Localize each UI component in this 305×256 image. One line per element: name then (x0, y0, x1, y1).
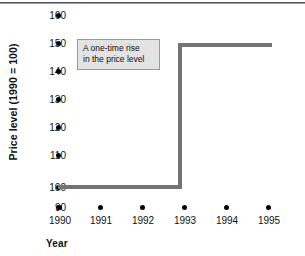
x-axis-title: Year (46, 238, 68, 249)
y-tick-dot-160 (56, 13, 61, 18)
y-tick-dot-130 (56, 97, 61, 102)
x-tick-dot-1995 (266, 205, 271, 210)
x-tick-label-1995: 1995 (249, 215, 289, 226)
x-tick-label-1991: 1991 (81, 215, 121, 226)
x-tick-label-1990: 1990 (40, 215, 80, 226)
y-tick-dot-110 (56, 153, 61, 158)
x-tick-label-1993: 1993 (165, 215, 205, 226)
x-tick-dot-1991 (98, 205, 103, 210)
x-tick-dot-1992 (140, 205, 145, 210)
y-axis-title: Price level (1990 = 100) (7, 37, 19, 167)
y-tick-dot-120 (56, 125, 61, 130)
annotation-line-1: A one-time rise (83, 43, 155, 54)
annotation-callout: A one-time rise in the price level (77, 39, 160, 70)
price-level-step-chart: Price level (1990 = 100) 160 150 140 130… (0, 0, 305, 256)
series-segment-vertical-rise-1993 (178, 43, 182, 189)
x-tick-dot-1994 (224, 205, 229, 210)
x-tick-label-1992: 1992 (123, 215, 163, 226)
top-divider-rule (0, 2, 305, 4)
y-tick-dot-140 (56, 69, 61, 74)
y-tick-dot-150 (56, 41, 61, 46)
series-segment-high-150 (178, 43, 272, 47)
x-tick-dot-1990 (57, 205, 62, 210)
x-tick-dot-1993 (182, 205, 187, 210)
x-tick-label-1994: 1994 (207, 215, 247, 226)
annotation-line-2: in the price level (83, 54, 155, 65)
series-segment-low-100 (58, 185, 182, 189)
